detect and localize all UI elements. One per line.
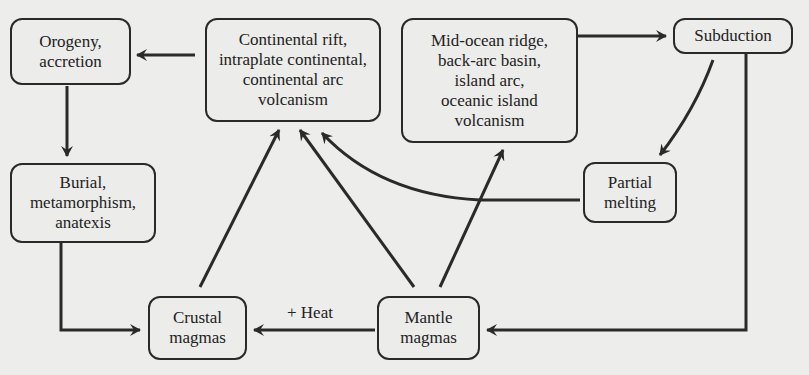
node-midocean-volcanism: Mid-ocean ridge, back-arc basin, island … [401,18,578,143]
arrow-subduction-to-partial-melting [660,60,713,155]
node-crustal-magmas-label: Crustal magmas [169,308,226,348]
arrow-mantle-to-midocean [440,150,503,287]
node-crustal-magmas: Crustal magmas [148,296,247,360]
node-continental-volcanism: Continental rift, intraplate continental… [205,18,381,122]
node-partial-melting: Partial melting [583,162,677,223]
arrow-burial-to-crustal [61,243,140,330]
node-burial: Burial, metamorphism, anatexis [10,163,156,243]
arrow-partial-melting-to-continental [322,133,580,200]
node-orogeny: Orogeny, accretion [10,18,131,85]
node-continental-label: Continental rift, intraplate continental… [219,30,367,110]
arrow-mantle-to-continental [300,130,414,287]
node-mantle-magmas: Mantle magmas [377,296,480,360]
node-orogeny-label: Orogeny, accretion [39,32,102,72]
edge-label-heat: + Heat [287,303,333,323]
node-partial-melting-label: Partial melting [604,173,656,213]
node-subduction: Subduction [673,18,793,54]
arrow-crustal-to-continental [200,130,279,287]
node-mantle-magmas-label: Mantle magmas [400,308,457,348]
node-midocean-label: Mid-ocean ridge, back-arc basin, island … [431,31,548,131]
node-burial-label: Burial, metamorphism, anatexis [30,173,136,233]
node-subduction-label: Subduction [694,26,771,46]
